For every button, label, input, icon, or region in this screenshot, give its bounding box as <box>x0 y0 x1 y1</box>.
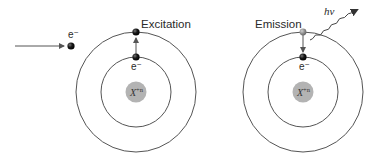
emission-ground-electron <box>299 53 306 60</box>
excitation-title: Excitation <box>141 18 191 30</box>
photon-label: hν <box>324 5 335 17</box>
incoming-electron-label: e⁻ <box>68 29 79 40</box>
atomic-transition-diagram: e⁻ X+n e⁻ Excitation X+n e⁻ <box>0 0 376 158</box>
excitation-ground-electron <box>132 53 139 60</box>
excitation-electron-label: e⁻ <box>131 61 142 72</box>
excitation-panel: e⁻ X+n e⁻ Excitation <box>15 18 196 152</box>
emission-panel: X+n e⁻ hν Emission <box>243 5 363 152</box>
excitation-excited-electron <box>132 28 139 35</box>
emission-title: Emission <box>255 18 302 30</box>
incoming-electron <box>67 42 74 49</box>
emission-electron-label: e⁻ <box>299 61 310 72</box>
